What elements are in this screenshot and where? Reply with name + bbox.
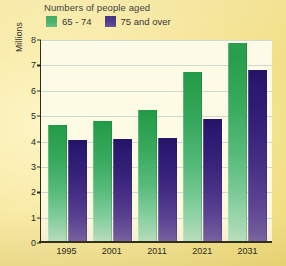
bar-2031-series-65-74	[228, 43, 247, 243]
x-axis-tick-labels: 19952001201120212031	[40, 246, 272, 256]
x-axis-tick-label: 2031	[225, 246, 270, 256]
bar-group	[45, 40, 90, 243]
bar-1995-series-75-and-over	[68, 140, 87, 243]
plot-wrapper: 876543210	[40, 40, 272, 243]
legend-swatch-green-icon	[46, 16, 57, 27]
y-axis-tick-label: 1	[31, 213, 36, 222]
y-axis-tick-label: 2	[31, 188, 36, 197]
bar-group	[135, 40, 180, 243]
y-axis-tick-label: 8	[31, 36, 36, 45]
y-axis-tick-label: 5	[31, 112, 36, 121]
legend-swatch-purple-icon	[105, 16, 116, 27]
bar-group	[90, 40, 135, 243]
chart-header: Numbers of people aged 65 - 74 75 and ov…	[44, 2, 274, 27]
bar-2001-series-65-74	[93, 121, 112, 243]
x-axis-tick-label: 2021	[180, 246, 225, 256]
bar-2011-series-75-and-over	[158, 138, 177, 243]
bar-chart-figure: Numbers of people aged 65 - 74 75 and ov…	[0, 0, 286, 266]
x-axis-tick-label: 2001	[89, 246, 134, 256]
y-axis-tick-label: 3	[31, 162, 36, 171]
legend-item-75-and-over: 75 and over	[105, 16, 171, 27]
legend-label-75-and-over: 75 and over	[121, 16, 171, 27]
bar-2021-series-75-and-over	[203, 119, 222, 243]
y-axis-tick-label: 6	[31, 86, 36, 95]
bar-2001-series-75-and-over	[113, 139, 132, 243]
plot-area: 876543210	[40, 40, 272, 243]
bar-2031-series-75-and-over	[248, 70, 267, 243]
legend-label-65-74: 65 - 74	[62, 16, 92, 27]
chart-legend: 65 - 74 75 and over	[46, 16, 274, 27]
bar-1995-series-65-74	[48, 125, 67, 243]
bar-group	[180, 40, 225, 243]
y-axis-title: Millions	[14, 22, 24, 52]
bar-2011-series-65-74	[138, 110, 157, 243]
bar-group	[225, 40, 270, 243]
bar-2021-series-65-74	[183, 72, 202, 243]
chart-title: Numbers of people aged	[44, 2, 274, 14]
y-axis-tick-label: 4	[31, 137, 36, 146]
y-axis-tick-label: 0	[31, 239, 36, 248]
x-axis-line	[39, 241, 272, 243]
legend-item-65-74: 65 - 74	[46, 16, 92, 27]
gridline: 0	[41, 243, 272, 244]
x-axis-tick-label: 2011	[134, 246, 179, 256]
y-axis-tick-label: 7	[31, 61, 36, 70]
x-axis-tick-label: 1995	[44, 246, 89, 256]
bars-layer	[41, 40, 272, 243]
